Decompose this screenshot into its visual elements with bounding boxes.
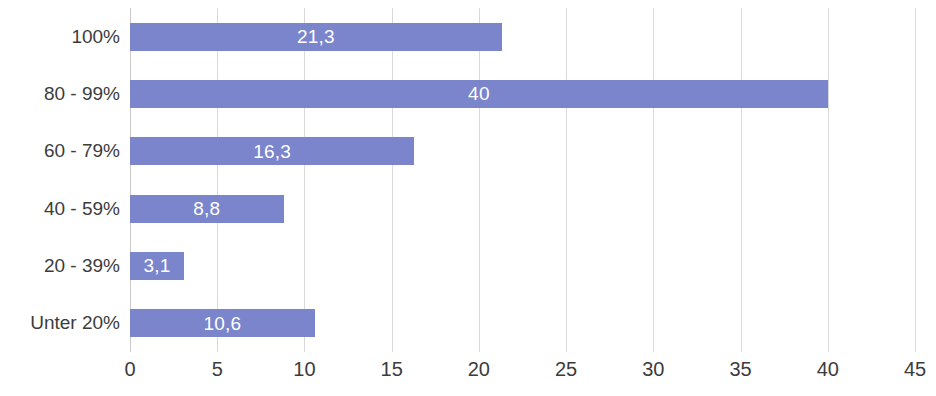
category-tick-label: 80 - 99% xyxy=(44,65,120,122)
bar-row: 21,3 xyxy=(130,8,915,65)
value-tick-label: 35 xyxy=(729,358,751,381)
bar-row: 3,1 xyxy=(130,237,915,294)
value-tick-label: 10 xyxy=(293,358,315,381)
bar: 8,8 xyxy=(130,195,284,223)
value-tick-label: 5 xyxy=(212,358,223,381)
category-axis: 100%80 - 99%60 - 79%40 - 59%20 - 39%Unte… xyxy=(0,8,120,352)
gridline xyxy=(915,8,916,352)
category-tick-label: 100% xyxy=(71,8,120,65)
category-tick-label: 40 - 59% xyxy=(44,180,120,237)
bar: 10,6 xyxy=(130,309,315,337)
bar-row: 40 xyxy=(130,65,915,122)
value-tick-label: 25 xyxy=(555,358,577,381)
bar-row: 10,6 xyxy=(130,295,915,352)
category-tick-label: 20 - 39% xyxy=(44,237,120,294)
bar-chart: 100%80 - 99%60 - 79%40 - 59%20 - 39%Unte… xyxy=(0,0,936,396)
bar-value-label: 8,8 xyxy=(193,199,220,218)
category-tick-label: Unter 20% xyxy=(30,295,120,352)
bar: 16,3 xyxy=(130,137,414,165)
bar-value-label: 10,6 xyxy=(204,314,242,333)
bar-row: 16,3 xyxy=(130,123,915,180)
bar-value-label: 21,3 xyxy=(297,27,335,46)
bar-row: 8,8 xyxy=(130,180,915,237)
bar-value-label: 3,1 xyxy=(144,256,171,275)
bar-value-label: 16,3 xyxy=(253,142,291,161)
bar: 21,3 xyxy=(130,23,502,51)
category-tick-label: 60 - 79% xyxy=(44,123,120,180)
bar-value-label: 40 xyxy=(468,84,490,103)
bar: 3,1 xyxy=(130,252,184,280)
value-tick-label: 30 xyxy=(642,358,664,381)
plot-area: 21,34016,38,83,110,6 xyxy=(130,8,915,352)
value-tick-label: 20 xyxy=(468,358,490,381)
value-tick-label: 15 xyxy=(381,358,403,381)
value-tick-label: 0 xyxy=(124,358,135,381)
value-tick-label: 45 xyxy=(904,358,926,381)
value-tick-label: 40 xyxy=(817,358,839,381)
bar: 40 xyxy=(130,80,828,108)
value-axis: 051015202530354045 xyxy=(130,358,915,388)
